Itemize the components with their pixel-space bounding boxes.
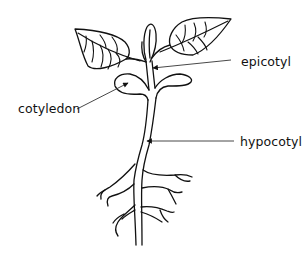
cotyledon-leader	[77, 83, 128, 109]
label-hypocotyl: hypocotyl	[240, 134, 302, 149]
true-leaf-right	[152, 18, 231, 58]
epicotyl-stem	[146, 61, 155, 90]
terminal-bud	[142, 24, 156, 62]
label-cotyledon: cotyledon	[18, 101, 80, 116]
seedling-drawing	[0, 0, 307, 263]
epicotyl-leader	[153, 60, 231, 68]
seedling-diagram: epicotyl cotyledon hypocotyl	[0, 0, 307, 263]
roots	[97, 164, 192, 236]
label-epicotyl: epicotyl	[241, 54, 291, 69]
cotyledon-right	[155, 74, 192, 98]
true-leaf-left	[75, 29, 146, 69]
